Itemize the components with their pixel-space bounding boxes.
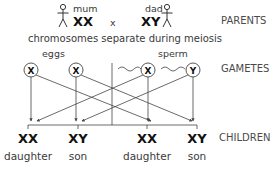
sperm-tail-icon	[161, 67, 185, 71]
parents-row-label: PARENTS	[221, 15, 266, 26]
gamete-chromosome: Y	[189, 66, 197, 76]
father-figure-icon	[162, 4, 173, 27]
mother-genotype: XX	[73, 14, 93, 29]
children-row-label: CHILDREN	[219, 132, 270, 143]
gametes-row-label: GAMETES	[221, 63, 269, 74]
cross-symbol: x	[110, 17, 116, 28]
child-sex: daughter	[4, 150, 53, 162]
meiosis-caption: chromosomes separate during meiosis	[28, 33, 222, 44]
child-genotype: XX	[18, 131, 38, 146]
child-sex: daughter	[123, 150, 172, 162]
gamete-sperm-2: Y	[186, 63, 200, 77]
child-sex: son	[69, 150, 88, 162]
child-sex: son	[188, 150, 207, 162]
father-label: dad	[145, 3, 163, 14]
sperm-label: sperm	[158, 48, 188, 59]
gamete-egg-2: X	[69, 63, 83, 77]
child-genotype: XY	[187, 131, 207, 146]
eggs-label: eggs	[42, 48, 65, 59]
sperm-tail-icon	[118, 67, 141, 71]
child-genotype: XY	[68, 131, 88, 146]
mother-label: mum	[73, 3, 98, 14]
sex-determination-diagram: mum XX x dad XY PARENTS chromosomes sepa…	[0, 0, 279, 172]
gamete-chromosome: X	[73, 66, 80, 76]
gamete-egg-1: X	[24, 63, 38, 77]
gamete-chromosome: X	[28, 66, 35, 76]
child-ticks	[28, 125, 197, 129]
gamete-chromosome: X	[145, 66, 152, 76]
gamete-sperm-1: X	[141, 63, 155, 77]
child-genotype: XX	[137, 131, 157, 146]
mother-figure-icon	[58, 4, 69, 27]
father-genotype: XY	[141, 14, 161, 29]
